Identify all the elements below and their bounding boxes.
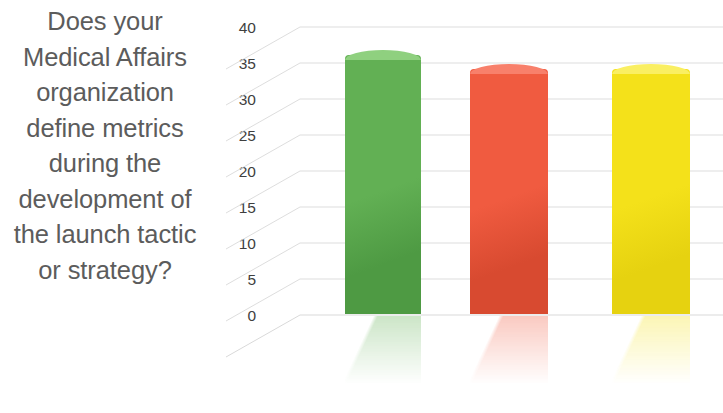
bar-chart: 4035302520151050 [210, 0, 723, 413]
red-bar-top-face [470, 64, 548, 74]
green-bar-reflection [345, 316, 421, 388]
yellow-bar-reflection [612, 316, 690, 388]
yellow-bar[interactable] [612, 64, 690, 315]
red-bar-face [470, 69, 548, 314]
green-bar[interactable] [345, 50, 421, 315]
yellow-bar-face [612, 69, 690, 314]
green-bar-face [345, 55, 421, 314]
yellow-bar-top-face [612, 64, 690, 74]
red-bar-reflection [470, 316, 548, 388]
slide-canvas: Does your Medical Affairs organization d… [0, 0, 723, 413]
question-panel: Does your Medical Affairs organization d… [0, 0, 210, 413]
page-title: Does your Medical Affairs organization d… [5, 4, 205, 288]
red-bar[interactable] [470, 64, 548, 315]
green-bar-top-face [345, 50, 421, 60]
